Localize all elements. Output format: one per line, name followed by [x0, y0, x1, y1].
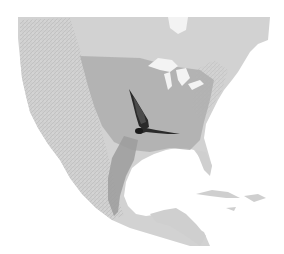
map-figure	[0, 0, 284, 254]
north-america-map	[0, 0, 284, 254]
